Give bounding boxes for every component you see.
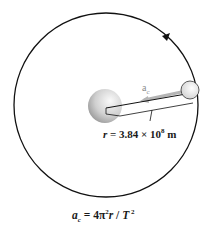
moon [181,81,199,99]
centripetal-formula: ac = 4π2r / T 2 [72,208,134,224]
acceleration-label: ac [142,82,150,96]
radius-label: r = 3.84 × 108 m [103,127,177,140]
orbit-diagram [0,0,212,232]
dimension-pointer [150,110,152,121]
dimension-line [120,103,193,116]
